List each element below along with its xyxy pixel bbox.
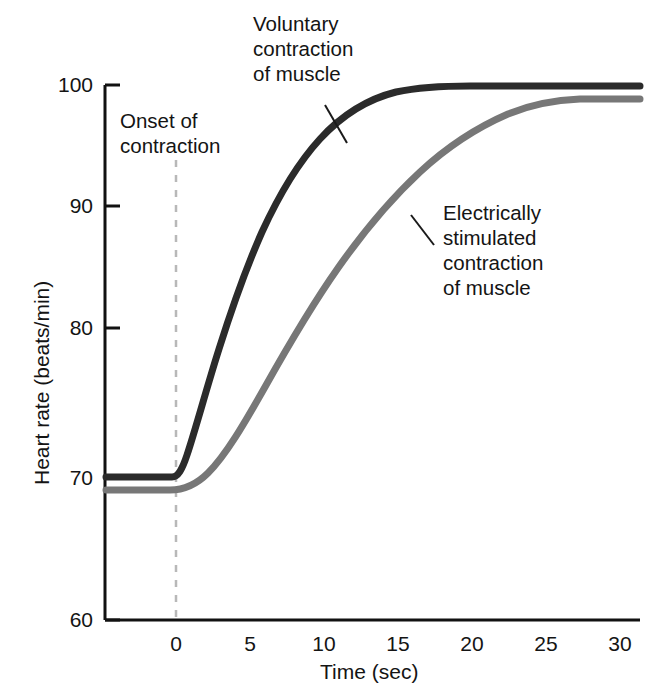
y-tick-label-100: 100 <box>33 73 93 97</box>
chart-canvas <box>0 0 667 691</box>
electrical-leader-line <box>411 215 434 245</box>
annotation-onset-line-2: contraction <box>120 133 220 158</box>
x-tick-label-15: 15 <box>378 632 418 656</box>
annotation-voluntary-line-2: contraction <box>253 36 353 61</box>
y-axis-title: Heart rate (beats/min) <box>30 281 54 485</box>
x-tick-label-10: 10 <box>304 632 344 656</box>
y-tick-label-60: 60 <box>33 608 93 632</box>
annotation-voluntary-line-3: of muscle <box>253 61 353 86</box>
annotation-voluntary-line-1: Voluntary <box>253 11 353 36</box>
voluntary-leader-line <box>325 105 347 143</box>
annotation-electrical-line-3: contraction <box>443 250 543 275</box>
annotation-electrical-line-1: Electrically <box>443 200 543 225</box>
y-axis-ticks <box>105 85 120 620</box>
annotation-onset: Onset of contraction <box>120 108 220 158</box>
annotation-onset-line-1: Onset of <box>120 108 220 133</box>
annotation-electrical-line-2: stimulated <box>443 225 543 250</box>
x-tick-label-5: 5 <box>230 632 270 656</box>
y-tick-label-90: 90 <box>33 194 93 218</box>
annotation-electrical: Electrically stimulated contraction of m… <box>443 200 543 300</box>
x-tick-label-20: 20 <box>452 632 492 656</box>
annotation-electrical-line-4: of muscle <box>443 275 543 300</box>
x-tick-label-30: 30 <box>600 632 640 656</box>
annotation-voluntary: Voluntary contraction of muscle <box>253 11 353 86</box>
chart-figure: 100 90 80 70 60 0 5 10 15 20 25 30 Time … <box>0 0 667 691</box>
x-axis-title: Time (sec) <box>320 660 418 684</box>
x-tick-label-25: 25 <box>526 632 566 656</box>
x-tick-label-0: 0 <box>156 632 196 656</box>
